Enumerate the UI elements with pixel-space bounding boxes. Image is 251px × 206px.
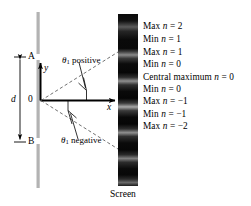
- order-variable: n: [161, 34, 166, 44]
- fringe-label: Min n = 0: [143, 85, 181, 94]
- barrier-segment-bottom: [37, 144, 40, 188]
- order-variable: n: [163, 21, 168, 31]
- order-variable: n: [163, 121, 168, 131]
- fringe-label: Min n = 1: [143, 35, 181, 44]
- fringe-label: Max n = −1: [143, 97, 188, 106]
- x-axis-label: x: [107, 103, 111, 113]
- y-axis-label: y: [44, 64, 48, 74]
- theta-negative-label: θ1 negative: [61, 136, 101, 146]
- fringe-label: Min n = −1: [143, 110, 186, 119]
- fringe-label: Max n = −2: [143, 122, 188, 131]
- slit-b-label: B: [28, 137, 34, 147]
- fringe-label: Max n = 2: [143, 22, 182, 31]
- fringe-label: Min n = 0: [143, 60, 181, 69]
- order-variable: n: [161, 109, 166, 119]
- theta-negative-text: negative: [71, 135, 102, 145]
- theta-positive-subscript: 1: [66, 58, 69, 65]
- order-variable: n: [163, 47, 168, 57]
- screen-band: [118, 14, 138, 186]
- order-variable: n: [214, 72, 219, 82]
- slit-a-label: A: [28, 52, 35, 62]
- order-variable: n: [161, 84, 166, 94]
- fringe-label: Max n = 1: [143, 48, 182, 57]
- theta-positive-text: positive: [72, 55, 101, 65]
- screen-caption: Screen: [110, 190, 136, 200]
- fringe-label: Central maximum n = 0: [143, 73, 234, 82]
- barrier-with-slits: [37, 12, 40, 188]
- order-variable: n: [161, 59, 166, 69]
- barrier-segment-middle: [37, 60, 40, 138]
- slit-separation-label: d: [11, 95, 16, 105]
- theta-negative-subscript: 1: [65, 138, 68, 145]
- order-variable: n: [163, 96, 168, 106]
- diagram-graphics: [0, 0, 251, 206]
- theta-positive-label: θ1 positive: [62, 56, 100, 66]
- barrier-segment-top: [37, 12, 40, 54]
- double-slit-diagram: A B d 0 y x θ1 positive θ1 negative Max …: [0, 0, 251, 206]
- angle-arc-positive: [79, 78, 87, 101]
- origin-label: 0: [28, 95, 33, 105]
